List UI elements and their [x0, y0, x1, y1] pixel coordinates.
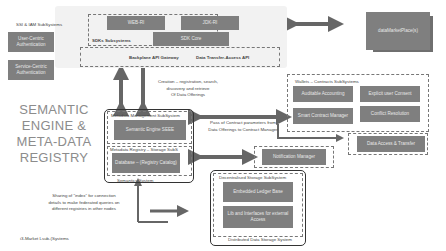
marketplace-box: dataMarketPlace(s): [366, 12, 430, 50]
sharing-note-line-1: Sharing of “index” for connection: [40, 193, 128, 200]
page-title: SEMANTIC ENGINE & META-DATA REGISTRY: [4, 102, 104, 166]
lib-interfaces-box: Lib and Interfaces for external Access: [223, 206, 293, 228]
creation-note-line-2: discovery and retrieve: [148, 86, 228, 93]
data-access-transfer-box: Data Access & Transfer: [357, 136, 425, 152]
semantic-engine-box: Semantic Engine SEEE: [114, 120, 186, 140]
web-ri-box: WEB-RI: [107, 16, 165, 30]
title-line-1: SEMANTIC: [4, 102, 104, 118]
user-centric-auth-box: User-Centric Authentication: [8, 32, 54, 52]
storage-label: Decentralised Storage SubSystem: [219, 175, 286, 180]
creation-note: Creation – registration, search, discove…: [148, 79, 228, 99]
title-line-2: ENGINE &: [4, 118, 104, 134]
data-transfer-access-api-label: Data Transfer-Access API: [196, 55, 249, 60]
storage-footer-label: Distributed Data Storage System: [228, 237, 292, 242]
sharing-note-line-3: different registries in other nodes: [40, 206, 128, 213]
embedded-ledger-box: Embedded Ledger Base: [223, 182, 293, 202]
contract-note-line-1: Pass of Contract parameters from: [198, 120, 288, 127]
conflict-resolution-box: Conflict Resolution: [360, 106, 420, 122]
auditable-accounting-box: Auditable Accounting: [293, 86, 353, 102]
sharing-note: Sharing of “index” for connection detail…: [40, 193, 128, 213]
contract-note-line-2: Data Offerings to Contract Manager: [198, 127, 288, 134]
wallets-label: Wallets – Contracts SubSystems: [295, 79, 359, 84]
ssi-iam-label: SSI & IAM SubSystems: [16, 22, 62, 27]
service-centric-auth-box: Service-Centric Authentication: [8, 60, 54, 80]
database-registry-catalog-box: Database – (Registry Catalog): [112, 153, 180, 173]
notification-manager-box: Notification Manager: [262, 149, 326, 165]
explicit-user-consent-box: Explicit user Consent: [360, 86, 420, 102]
metadata-registry-label: Metadata Registry – Storage SubS: [110, 147, 178, 152]
creation-note-line-3: Of Data Offerings: [148, 92, 228, 99]
semantics-system-label: Semantics System: [117, 178, 153, 183]
metadata-management-label: Metadata Management SubSystem: [111, 113, 180, 118]
backplane-api-gateway-label: Backplane API Gateway: [129, 55, 179, 60]
contract-note: Pass of Contract parameters from Data Of…: [198, 120, 288, 133]
title-line-3: META-DATA: [4, 134, 104, 150]
api-gateway-bar: [80, 47, 280, 67]
smart-contract-manager-box: Smart Contract Manager: [293, 108, 353, 124]
footer-label: i3-Market Lsub-(Systems: [20, 236, 69, 241]
sharing-note-line-2: details to make federated queries on: [40, 200, 128, 207]
title-line-4: REGISTRY: [4, 150, 104, 166]
sdk-core-box: SDK Core: [153, 32, 229, 46]
creation-note-line-1: Creation – registration, search,: [148, 79, 228, 86]
sdks-label: SDKs Subsystems: [92, 38, 131, 43]
jdk-ri-box: JDK-RI: [181, 16, 239, 30]
